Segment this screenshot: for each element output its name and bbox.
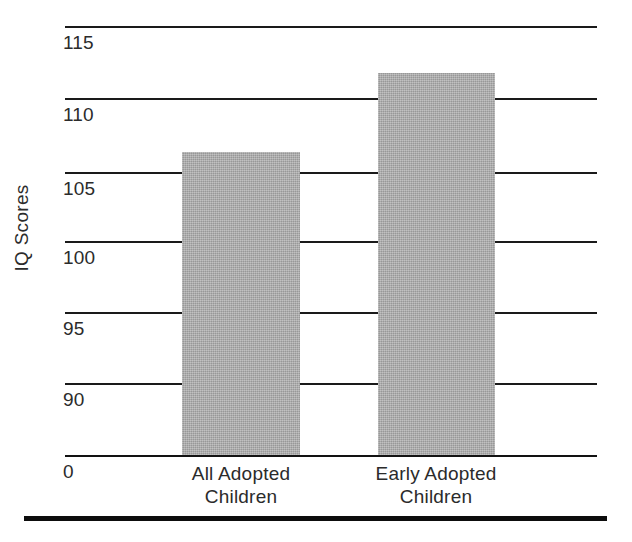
- y-axis-title-text: IQ Scores: [11, 184, 33, 271]
- category-label-early-adopted-children: Early Adopted Children: [351, 462, 521, 508]
- y-tick-label-110: 110: [63, 105, 94, 124]
- category-label-line2: Children: [351, 485, 521, 508]
- category-label-line1: Early Adopted: [351, 462, 521, 485]
- y-tick-label-95: 95: [63, 319, 85, 338]
- gridline-100: [65, 241, 597, 243]
- gridline-105: [65, 172, 597, 174]
- bottom-rule: [24, 516, 607, 521]
- category-label-line1: All Adopted: [156, 462, 326, 485]
- plot-area: 115 110 105 100 95 90 0 IQ Scores All Ad…: [0, 0, 632, 542]
- y-tick-label-100: 100: [63, 248, 95, 267]
- bar-chart: 115 110 105 100 95 90 0 IQ Scores All Ad…: [0, 0, 632, 542]
- axis-baseline-zero: [65, 455, 597, 457]
- bar-early-adopted-children: [378, 73, 495, 455]
- gridline-90: [65, 383, 597, 385]
- y-axis-title: IQ Scores: [0, 0, 44, 455]
- y-tick-label-0: 0: [63, 462, 74, 481]
- y-tick-label-105: 105: [63, 179, 95, 198]
- y-tick-label-115: 115: [63, 33, 94, 52]
- category-label-line2: Children: [156, 485, 326, 508]
- gridline-110: [65, 98, 597, 100]
- bar-all-adopted-children: [182, 152, 300, 455]
- y-tick-label-90: 90: [63, 390, 85, 409]
- gridline-115: [65, 26, 597, 28]
- category-label-all-adopted-children: All Adopted Children: [156, 462, 326, 508]
- gridline-95: [65, 312, 597, 314]
